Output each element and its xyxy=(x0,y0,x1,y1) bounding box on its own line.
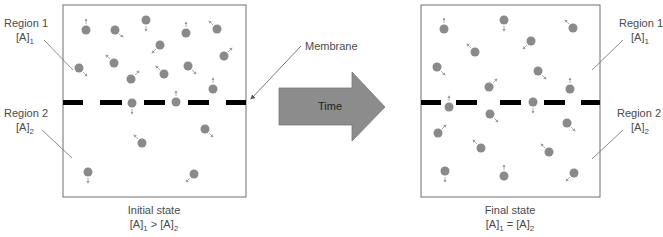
initial-region1-conc: [A]1 xyxy=(16,31,34,44)
initial-state-relation: [A]1 > [A]2 xyxy=(104,218,204,231)
final-region1-label: Region 1 xyxy=(619,17,663,30)
time-label: Time xyxy=(318,100,342,113)
initial-state-caption: Initial state xyxy=(104,204,204,217)
final-state-caption: Final state xyxy=(460,204,560,217)
initial-region2-label: Region 2 xyxy=(4,107,48,120)
final-state-box xyxy=(421,5,623,197)
membrane-label: Membrane xyxy=(305,40,358,53)
final-region2-label: Region 2 xyxy=(617,107,661,120)
final-region1-conc: [A]1 xyxy=(631,31,649,44)
final-region2-conc: [A]2 xyxy=(631,121,649,134)
initial-region2-conc: [A]2 xyxy=(16,121,34,134)
initial-state-box xyxy=(42,5,246,197)
initial-region1-label: Region 1 xyxy=(4,17,48,30)
final-state-relation: [A]1 = [A]2 xyxy=(460,218,560,231)
